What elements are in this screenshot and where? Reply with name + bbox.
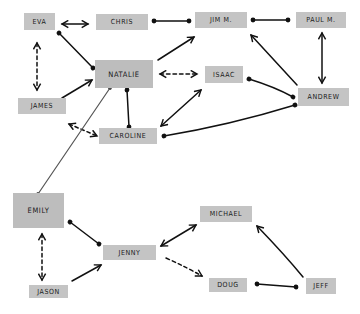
edge-jason-jenny <box>72 265 101 281</box>
node-jim: JIM M. <box>195 12 247 28</box>
edge-jenny-doug <box>166 258 202 276</box>
node-doug: DOUG <box>209 278 247 292</box>
node-jeff: JEFF <box>306 278 336 294</box>
node-caroline: CAROLINE <box>99 128 157 144</box>
node-jason: JASON <box>29 285 68 298</box>
edge-isaac-andrew <box>249 79 293 97</box>
node-chris: CHRIS <box>96 14 148 30</box>
node-paul: PAUL M. <box>296 12 346 28</box>
edges-layer <box>0 0 360 314</box>
edge-caroline-isaac <box>161 90 201 126</box>
edge-natalie-jim <box>158 37 194 60</box>
edge-caroline-andrew <box>164 105 295 136</box>
edge-natalie-caroline <box>127 90 129 127</box>
node-andrew: ANDREW <box>298 88 349 106</box>
edge-jeff-michael <box>257 226 303 277</box>
node-eva: EVA <box>24 13 55 30</box>
node-natalie: NATALIE <box>95 60 153 88</box>
edge-eva-natalie <box>59 33 93 68</box>
node-michael: MICHAEL <box>200 206 252 222</box>
node-jenny: JENNY <box>103 245 156 260</box>
node-isaac: ISAAC <box>205 66 243 83</box>
edge-doug-jeff <box>257 284 296 287</box>
network-diagram: EVACHRISJIM M.PAUL M.NATALIEISAACANDREWJ… <box>0 0 360 314</box>
node-emily: EMILY <box>13 193 64 228</box>
edge-jenny-michael <box>161 225 196 246</box>
edge-james-caroline <box>69 124 97 136</box>
edge-james-natalie <box>62 80 92 98</box>
edge-emily-jenny <box>70 222 99 244</box>
node-james: JAMES <box>18 98 66 114</box>
edge-andrew-jim <box>251 35 297 85</box>
